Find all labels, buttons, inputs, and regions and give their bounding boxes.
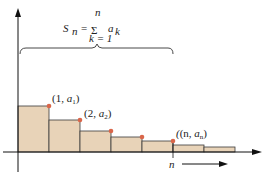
svg-text:a: a	[108, 22, 114, 34]
svg-text:k: k	[115, 25, 121, 37]
point-1	[47, 104, 52, 109]
svg-text:n: n	[72, 25, 78, 37]
bar-1	[18, 106, 49, 152]
point-label-n: ((n, an)	[176, 127, 207, 141]
y-axis-arrow-icon	[15, 8, 21, 17]
bar-7	[204, 147, 235, 152]
svg-text:n: n	[95, 6, 101, 18]
brace	[20, 44, 173, 54]
bar-6	[173, 145, 204, 152]
point-n	[171, 139, 176, 144]
bar-3	[80, 131, 111, 152]
point-3	[109, 129, 114, 134]
sum-formula: S n = Σ n k = 1 a k	[63, 6, 121, 44]
partial-sum-diagram: (1, a1) (2, a2) ((n, an) n S n = Σ n k =…	[0, 0, 265, 176]
point-label-2: (2, a2)	[84, 107, 112, 121]
point-4	[140, 135, 145, 140]
point-label-1: (1, a1)	[52, 92, 80, 106]
bar-4	[111, 137, 142, 152]
x-axis-arrow-icon	[252, 149, 262, 155]
bar-2	[49, 120, 80, 152]
svg-text:S: S	[63, 22, 69, 34]
point-2	[78, 118, 83, 123]
svg-text:=: =	[81, 22, 87, 34]
bar-5	[142, 141, 173, 152]
n-direction-arrow-icon	[219, 161, 228, 167]
n-axis-label: n	[169, 158, 175, 170]
